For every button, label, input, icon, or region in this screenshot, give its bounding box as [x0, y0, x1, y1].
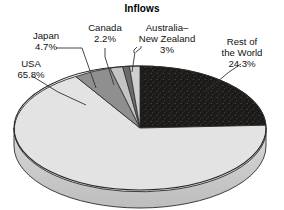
label-rest-value: 24.3% — [206, 58, 278, 69]
pie-chart-figure: Inflows — [0, 0, 284, 210]
label-japan-value: 4.7% — [20, 41, 72, 52]
label-canada: Canada 2.2% — [76, 22, 134, 44]
label-japan-name: Japan — [20, 30, 72, 41]
label-anz-value: 3% — [129, 44, 205, 55]
label-rest-of-the-world: Rest of the World 24.3% — [206, 36, 278, 70]
label-canada-name: Canada — [76, 22, 134, 33]
label-australia-new-zealand: Australia– New Zealand 3% — [129, 22, 205, 56]
label-anz-name-line2: New Zealand — [129, 33, 205, 44]
label-canada-value: 2.2% — [76, 33, 134, 44]
label-rest-name-line2: the World — [206, 47, 278, 58]
label-japan: Japan 4.7% — [20, 30, 72, 52]
pie-slice-rest-of-the-world — [140, 66, 266, 128]
label-anz-name-line1: Australia– — [129, 22, 205, 33]
label-usa: USA 65.8% — [4, 58, 58, 80]
label-rest-name-line1: Rest of — [206, 36, 278, 47]
label-usa-value: 65.8% — [4, 69, 58, 80]
label-usa-name: USA — [4, 58, 58, 69]
pie-top-face — [14, 66, 266, 192]
